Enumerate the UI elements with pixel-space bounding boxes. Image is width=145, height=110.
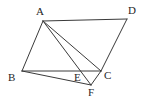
vertex-label-c: C xyxy=(104,70,111,81)
segment-af xyxy=(43,21,91,85)
segment-ad xyxy=(43,19,127,21)
vertex-label-a: A xyxy=(36,6,44,17)
geometry-canvas xyxy=(0,0,145,110)
vertex-label-b: B xyxy=(8,72,15,83)
vertex-label-d: D xyxy=(128,5,136,16)
segment-ab xyxy=(22,21,43,71)
vertex-label-e: E xyxy=(74,72,81,83)
geometry-figure: ABCDEF xyxy=(0,0,145,110)
segment-cf xyxy=(91,71,101,85)
segment-dc xyxy=(101,19,127,71)
segment-ac xyxy=(43,21,101,71)
vertex-label-f: F xyxy=(88,87,94,98)
